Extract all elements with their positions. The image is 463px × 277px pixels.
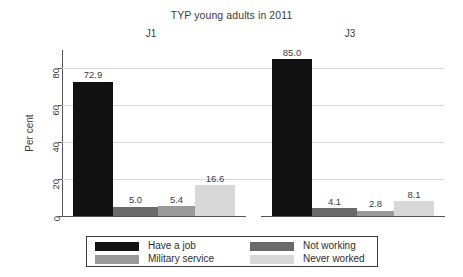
- legend-item[interactable]: Not working: [246, 240, 377, 252]
- y-tick-label: 0: [51, 216, 61, 221]
- bar: 8.1: [394, 201, 434, 216]
- legend-label: Not working: [303, 241, 356, 251]
- legend-row: Have a jobNot working: [87, 240, 377, 252]
- bar-value-label: 2.8: [369, 199, 382, 209]
- chart-legend: Have a jobNot workingMilitary serviceNev…: [86, 236, 378, 267]
- y-tick-label: 60: [51, 105, 61, 116]
- bar-value-label: 16.6: [206, 174, 225, 184]
- y-tick-label: 40: [51, 142, 61, 153]
- bar: 4.1: [312, 208, 357, 216]
- y-axis-title: Per cent: [24, 50, 36, 216]
- bar-value-label: 85.0: [283, 48, 302, 58]
- baseline-segment: [261, 216, 445, 217]
- chart-title: TYP young adults in 2011: [0, 9, 463, 21]
- group-label-j1: J1: [131, 28, 171, 39]
- bar: 5.4: [158, 206, 195, 216]
- legend-label: Military service: [148, 254, 214, 264]
- legend-swatch: [250, 255, 294, 264]
- legend-label: Have a job: [148, 241, 196, 251]
- legend-swatch: [95, 242, 139, 251]
- gridline: [62, 68, 444, 69]
- bar-value-label: 8.1: [407, 190, 420, 200]
- legend-item[interactable]: Military service: [87, 253, 246, 265]
- bar-value-label: 5.0: [129, 195, 142, 205]
- bar: 85.0: [272, 59, 312, 216]
- legend-label: Never worked: [303, 254, 365, 264]
- y-tick-label: 80: [51, 68, 61, 79]
- bar-chart: TYP young adults in 2011 J1 J3 Per cent …: [0, 0, 463, 277]
- baseline-segment: [62, 216, 246, 217]
- gridline: [62, 142, 444, 143]
- bar-value-label: 5.4: [170, 195, 183, 205]
- legend-item[interactable]: Never worked: [246, 253, 377, 265]
- bar: 72.9: [73, 82, 113, 216]
- group-label-j3: J3: [330, 28, 370, 39]
- y-tick-label: 20: [51, 179, 61, 190]
- gridline: [62, 179, 444, 180]
- bar: 5.0: [113, 207, 158, 216]
- bar: 16.6: [195, 185, 235, 216]
- legend-row: Military serviceNever worked: [87, 253, 377, 265]
- bar-value-label: 72.9: [84, 70, 103, 80]
- legend-swatch: [250, 242, 294, 251]
- legend-swatch: [95, 255, 139, 264]
- bar: 2.8: [357, 211, 394, 216]
- bar-value-label: 4.1: [328, 197, 341, 207]
- plot-area: 020406080 72.95.05.416.685.04.12.88.1: [62, 50, 444, 216]
- gridline: [62, 105, 444, 106]
- legend-item[interactable]: Have a job: [87, 240, 246, 252]
